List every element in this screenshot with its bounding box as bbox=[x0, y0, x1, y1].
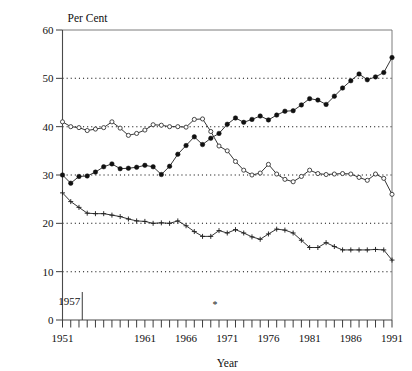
point-plus-marker-series-1956 bbox=[101, 211, 106, 216]
point-open-circle-series-1967 bbox=[192, 117, 196, 121]
axis-labels-group: 1951196119661971197619811986199101020304… bbox=[43, 12, 404, 369]
point-filled-circle-series-1983 bbox=[324, 102, 329, 107]
point-open-circle-series-1979 bbox=[291, 180, 295, 184]
annotations-group: 1957* bbox=[58, 292, 217, 320]
point-filled-circle-series-1985 bbox=[340, 86, 345, 91]
point-filled-circle-series-1965 bbox=[176, 152, 181, 157]
point-open-circle-series-1961 bbox=[143, 128, 147, 132]
point-open-circle-series-1969 bbox=[209, 129, 213, 133]
point-open-circle-series-1954 bbox=[85, 128, 89, 132]
point-open-circle-series-1965 bbox=[176, 125, 180, 129]
y-tick-label-0: 0 bbox=[48, 314, 54, 326]
point-filled-circle-series-1980 bbox=[299, 103, 304, 108]
point-filled-circle-series-1968 bbox=[200, 142, 205, 147]
y-tick-label-10: 10 bbox=[43, 266, 55, 278]
point-plus-marker-series-1986 bbox=[348, 247, 353, 252]
point-filled-circle-series-1958 bbox=[118, 166, 123, 171]
point-filled-circle-series-1961 bbox=[143, 163, 148, 168]
point-open-circle-series-1963 bbox=[159, 123, 163, 127]
point-plus-marker-series-1989 bbox=[373, 247, 378, 252]
point-open-circle-series-1955 bbox=[93, 127, 97, 131]
series-path-open-circle-series bbox=[63, 119, 393, 194]
point-plus-marker-series-1963 bbox=[159, 220, 164, 225]
point-plus-marker-series-1988 bbox=[365, 247, 370, 252]
y-axis-title: Per Cent bbox=[68, 12, 109, 24]
point-filled-circle-series-1989 bbox=[373, 75, 378, 80]
point-plus-marker-series-1959 bbox=[126, 216, 131, 221]
point-filled-circle-series-1960 bbox=[134, 165, 139, 170]
point-filled-circle-series-1973 bbox=[241, 120, 246, 125]
x-tick-label-1976: 1976 bbox=[257, 332, 280, 344]
point-filled-circle-series-1979 bbox=[291, 108, 296, 113]
point-open-circle-series-1964 bbox=[168, 125, 172, 129]
point-open-circle-series-1968 bbox=[200, 117, 204, 121]
point-filled-circle-series-1975 bbox=[258, 114, 263, 119]
x-axis-title: Year bbox=[217, 357, 238, 369]
point-filled-circle-series-1953 bbox=[77, 174, 82, 179]
point-plus-marker-series-1958 bbox=[118, 214, 123, 219]
point-open-circle-series-1958 bbox=[118, 126, 122, 130]
point-open-circle-series-1978 bbox=[283, 177, 287, 181]
x-tick-label-1981: 1981 bbox=[299, 332, 321, 344]
point-filled-circle-series-1964 bbox=[167, 164, 172, 169]
point-open-circle-series-1951 bbox=[60, 120, 64, 124]
point-filled-circle-series-1981 bbox=[307, 96, 312, 101]
point-filled-circle-series-1988 bbox=[365, 78, 370, 83]
point-filled-circle-series-1987 bbox=[357, 72, 362, 77]
point-open-circle-series-1983 bbox=[324, 172, 328, 176]
point-open-circle-series-1971 bbox=[225, 149, 229, 153]
point-open-circle-series-1953 bbox=[77, 126, 81, 130]
point-open-circle-series-1982 bbox=[316, 172, 320, 176]
point-open-circle-series-1974 bbox=[250, 173, 254, 177]
point-plus-marker-series-1968 bbox=[200, 234, 205, 239]
point-open-circle-series-1984 bbox=[332, 172, 336, 176]
point-filled-circle-series-1959 bbox=[126, 166, 131, 171]
point-filled-circle-series-1976 bbox=[266, 118, 271, 123]
point-filled-circle-series-1984 bbox=[332, 94, 337, 99]
point-open-circle-series-1957 bbox=[110, 120, 114, 124]
x-tick-label-1991: 1991 bbox=[381, 332, 403, 344]
point-open-circle-series-1977 bbox=[275, 172, 279, 176]
point-plus-marker-series-1977 bbox=[274, 227, 279, 232]
x-tick-label-1961: 1961 bbox=[134, 332, 156, 344]
point-filled-circle-series-1952 bbox=[68, 181, 73, 186]
asterisk-marker-label: * bbox=[212, 299, 217, 310]
point-plus-marker-series-1964 bbox=[167, 221, 172, 226]
point-plus-marker-series-1975 bbox=[258, 237, 263, 242]
point-filled-circle-series-1951 bbox=[60, 173, 65, 178]
data-series-group bbox=[60, 55, 395, 262]
point-filled-circle-series-1974 bbox=[250, 117, 255, 122]
point-open-circle-series-1985 bbox=[341, 172, 345, 176]
year-marker-1957-label: 1957 bbox=[58, 295, 81, 307]
x-tick-label-1986: 1986 bbox=[340, 332, 363, 344]
point-plus-marker-series-1965 bbox=[175, 218, 180, 223]
point-filled-circle-series-1978 bbox=[283, 109, 288, 114]
y-tick-label-60: 60 bbox=[43, 24, 55, 36]
point-open-circle-series-1976 bbox=[266, 162, 270, 166]
point-plus-marker-series-1983 bbox=[324, 240, 329, 245]
point-filled-circle-series-1972 bbox=[233, 116, 238, 121]
point-open-circle-series-1966 bbox=[184, 125, 188, 129]
point-open-circle-series-1973 bbox=[242, 168, 246, 172]
point-open-circle-series-1990 bbox=[382, 176, 386, 180]
point-filled-circle-series-1963 bbox=[159, 172, 164, 177]
series-plus-marker-series bbox=[60, 190, 395, 262]
chart-figure: 1957* 1951196119661971197619811986199101… bbox=[0, 0, 412, 371]
point-filled-circle-series-1954 bbox=[85, 174, 90, 179]
point-filled-circle-series-1956 bbox=[101, 165, 106, 170]
point-plus-marker-series-1984 bbox=[332, 244, 337, 249]
point-open-circle-series-1986 bbox=[349, 172, 353, 176]
point-open-circle-series-1952 bbox=[69, 125, 73, 129]
point-plus-marker-series-1974 bbox=[249, 234, 254, 239]
point-open-circle-series-1987 bbox=[357, 175, 361, 179]
point-plus-marker-series-1957 bbox=[109, 213, 114, 218]
point-plus-marker-series-1971 bbox=[225, 231, 230, 236]
y-tick-label-40: 40 bbox=[43, 121, 55, 133]
point-open-circle-series-1988 bbox=[365, 178, 369, 182]
point-filled-circle-series-1990 bbox=[382, 70, 387, 75]
point-filled-circle-series-1986 bbox=[349, 79, 354, 84]
point-filled-circle-series-1962 bbox=[151, 165, 156, 170]
chart-canvas: 1957* 1951196119661971197619811986199101… bbox=[0, 0, 412, 371]
point-open-circle-series-1981 bbox=[308, 168, 312, 172]
y-tick-label-20: 20 bbox=[43, 217, 55, 229]
